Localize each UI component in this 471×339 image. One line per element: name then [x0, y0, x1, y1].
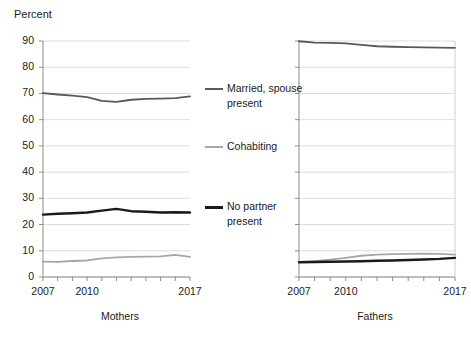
legend-swatch-married: [205, 88, 223, 90]
x-tick-label: 2017: [174, 285, 206, 297]
legend-label-no-partner: No partner present: [227, 199, 303, 228]
series-line: [299, 41, 455, 48]
x-tick-label: 2010: [330, 285, 362, 297]
series-line: [43, 255, 190, 262]
panel-label-mothers: Mothers: [60, 310, 180, 322]
y-tick-label: 70: [12, 86, 34, 98]
series-line: [43, 93, 190, 102]
x-tick-label: 2017: [439, 285, 471, 297]
y-tick-label: 0: [12, 270, 34, 282]
y-tick-label: 20: [12, 218, 34, 230]
legend-label-married: Married, spouse present: [227, 81, 303, 110]
series-line: [43, 209, 190, 215]
legend-swatch-cohabiting: [205, 146, 223, 148]
panel-label-fathers: Fathers: [325, 310, 425, 322]
x-tick-label: 2010: [71, 285, 103, 297]
y-tick-label: 30: [12, 191, 34, 203]
x-tick-label: 2007: [283, 285, 315, 297]
legend-label-cohabiting: Cohabiting: [227, 139, 303, 154]
legend-swatch-no-partner: [205, 206, 223, 209]
y-tick-label: 40: [12, 165, 34, 177]
y-axis-title: Percent: [14, 8, 52, 20]
y-tick-label: 60: [12, 113, 34, 125]
y-tick-label: 90: [12, 34, 34, 46]
y-tick-label: 50: [12, 139, 34, 151]
y-tick-label: 80: [12, 60, 34, 72]
y-tick-label: 10: [12, 244, 34, 256]
x-tick-label: 2007: [27, 285, 59, 297]
